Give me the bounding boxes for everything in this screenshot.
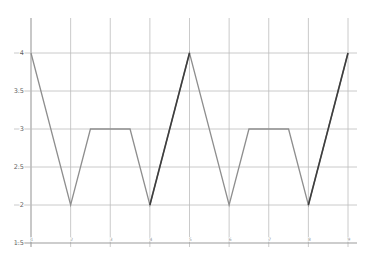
x-axis-tick-label: 6 [229, 237, 232, 242]
y-axis-tick-label: 2.5 [14, 163, 24, 171]
x-axis-tick-label: 3 [110, 237, 113, 242]
x-axis-tick-label: 8 [308, 237, 311, 242]
plot-area: 43.532.521.5123456789 [0, 0, 375, 256]
y-axis-tick-label: 3 [20, 125, 24, 133]
y-axis-tick-label: 4 [20, 49, 24, 57]
x-axis-tick-label: 2 [70, 237, 73, 242]
x-axis-tick-label: 5 [189, 237, 192, 242]
y-axis-tick-label: 3.5 [14, 87, 24, 95]
x-axis-tick-label: 4 [149, 237, 152, 242]
screenshot-canvas: 43.532.521.5123456789 [0, 0, 375, 256]
x-axis-tick-label: 9 [348, 237, 351, 242]
waveform-line-chart: 43.532.521.5123456789 [0, 0, 375, 256]
x-axis-tick-label: 7 [268, 237, 271, 242]
x-axis-tick-label: 1 [31, 237, 34, 242]
y-axis-tick-label: 2 [20, 201, 24, 209]
y-axis-tick-label: 1.5 [14, 239, 24, 247]
